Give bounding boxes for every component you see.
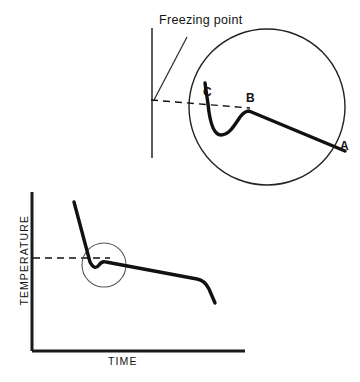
magnifier-circle	[189, 29, 345, 185]
point-b-label: B	[246, 92, 255, 104]
freezing-point-leader-line	[154, 37, 187, 100]
supercooling-cooling-curve-figure: Freezing point C B A TIME TEMPERATURE	[0, 0, 360, 382]
point-c-label: C	[203, 86, 212, 98]
freezing-point-line-inset	[151, 100, 250, 108]
freezing-point-label: Freezing point	[159, 14, 242, 27]
y-axis-label: TEMPERATURE	[19, 210, 30, 310]
inset-cooling-curve	[205, 83, 345, 151]
figure-canvas	[0, 0, 360, 382]
point-a-label: A	[340, 140, 349, 152]
main-cooling-curve	[74, 202, 215, 303]
x-axis-label: TIME	[108, 356, 137, 367]
